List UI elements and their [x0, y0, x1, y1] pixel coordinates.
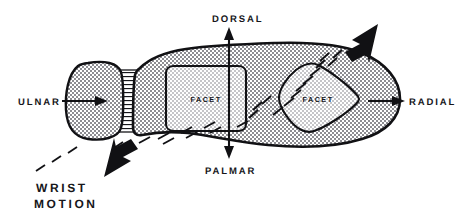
wrist-motion-label-line1: WRIST — [36, 181, 88, 195]
ulnar-label: ULNAR — [18, 97, 61, 108]
dash-segment — [139, 137, 150, 143]
dorsal-arrowhead — [224, 27, 234, 40]
facet-right-label: FACET — [302, 95, 333, 104]
dash-segment — [36, 165, 45, 171]
facet-left: FACET — [166, 66, 246, 131]
palmar-arrowhead — [224, 146, 234, 159]
wrist-motion-label-line2: MOTION — [34, 197, 98, 211]
palmar-label: PALMAR — [205, 166, 256, 177]
wrist-anatomy-diagram: FACET FACET — [0, 0, 474, 215]
dash-segment — [158, 133, 169, 139]
dash-segment — [52, 156, 61, 162]
diagram-canvas: FACET FACET — [0, 0, 474, 215]
dorsal-label: DORSAL — [212, 14, 264, 25]
dash-segment — [68, 147, 77, 153]
dash-segment — [163, 138, 174, 144]
radial-label: RADIAL — [409, 97, 456, 108]
facet-left-label: FACET — [190, 95, 221, 104]
